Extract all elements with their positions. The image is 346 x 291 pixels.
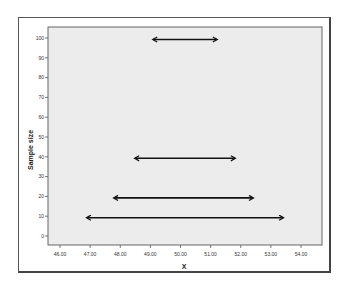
y-tick-label: 50 bbox=[38, 134, 44, 140]
x-tick-label: 50.00 bbox=[174, 251, 187, 257]
y-tick-label: 20 bbox=[38, 193, 44, 199]
x-tick-label: 47.00 bbox=[84, 251, 97, 257]
y-axis: 0102030405060708090100 bbox=[36, 35, 48, 239]
x-axis: 46.0047.0048.0049.0050.0051.0052.0053.00… bbox=[54, 245, 308, 257]
y-tick-label: 80 bbox=[38, 74, 44, 80]
x-tick-label: 52.00 bbox=[234, 251, 247, 257]
plot-area bbox=[48, 27, 322, 245]
y-tick-label: 100 bbox=[36, 35, 45, 41]
x-tick-label: 51.00 bbox=[204, 251, 217, 257]
y-tick-label: 30 bbox=[38, 173, 44, 179]
x-tick-label: 48.00 bbox=[114, 251, 127, 257]
x-tick-label: 49.00 bbox=[144, 251, 157, 257]
y-axis-title: Sample size bbox=[27, 130, 35, 170]
x-tick-label: 53.00 bbox=[265, 251, 278, 257]
y-tick-label: 70 bbox=[38, 94, 44, 100]
y-tick-label: 0 bbox=[41, 233, 44, 239]
y-tick-label: 10 bbox=[38, 213, 44, 219]
x-axis-title: X bbox=[182, 263, 187, 270]
y-tick-label: 90 bbox=[38, 55, 44, 61]
y-tick-label: 40 bbox=[38, 154, 44, 160]
x-tick-label: 46.00 bbox=[54, 251, 67, 257]
interval-chart: 0102030405060708090100 46.0047.0048.0049… bbox=[0, 0, 346, 291]
x-tick-label: 54.00 bbox=[295, 251, 308, 257]
y-tick-label: 60 bbox=[38, 114, 44, 120]
